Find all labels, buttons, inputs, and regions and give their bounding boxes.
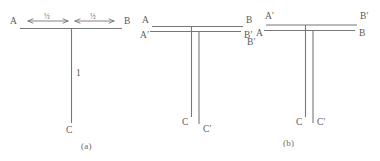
- panel-a-dimension-stem: 1: [76, 69, 81, 79]
- panel-b-caption: (b): [283, 139, 294, 148]
- panel-a-label-a: A: [10, 17, 17, 27]
- panel-a-label-c: C: [66, 126, 73, 136]
- panel-a-dimension-left: ½: [44, 13, 50, 21]
- figure-linework: [0, 0, 380, 161]
- panel-middle-label-a: A: [142, 16, 149, 26]
- panel-b-label-c-prime: C′: [317, 118, 326, 128]
- panel-b-label-b-prime-left: B′: [247, 38, 256, 48]
- panel-b-label-b-prime: B′: [360, 12, 369, 22]
- panel-b-label-a-prime: A′: [265, 12, 274, 22]
- panel-b-label-b: B: [359, 29, 366, 39]
- panel-middle-linework: [150, 27, 243, 125]
- figure-root: A B ½ ½ 1 C (a) A A′ B B′ C C′ A′ A B′ B…: [0, 0, 380, 161]
- panel-a-dimension-right: ½: [90, 13, 96, 21]
- panel-middle-label-c: C: [182, 118, 189, 128]
- panel-middle-label-a-prime: A′: [140, 31, 149, 41]
- panel-a-label-b: B: [124, 17, 131, 27]
- panel-b-linework: [264, 25, 357, 123]
- panel-b-label-c: C: [296, 118, 303, 128]
- panel-middle-label-c-prime: C′: [203, 125, 212, 135]
- panel-a-dimension-arrows: [28, 19, 114, 23]
- panel-a-linework: [20, 29, 122, 124]
- panel-middle-label-b: B: [246, 16, 253, 26]
- panel-a-caption: (a): [81, 142, 92, 151]
- panel-b-label-a: A: [256, 29, 263, 39]
